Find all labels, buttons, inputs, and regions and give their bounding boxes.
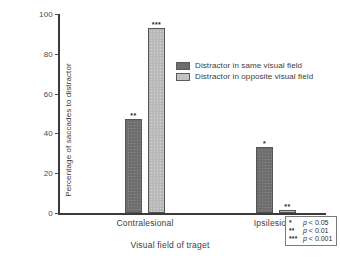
legend-item-same: Distractor in same visual field	[176, 60, 313, 71]
significance-key-stars: ***	[289, 235, 303, 242]
significance-key-stars: *	[289, 219, 303, 226]
significance-key-row: **p < 0.01	[289, 227, 332, 235]
significance-marker: ***	[152, 22, 162, 28]
significance-key-pvalue: p < 0.01	[303, 227, 329, 234]
bar-contralesional-same: **	[125, 119, 142, 213]
legend-swatch-icon	[176, 73, 190, 81]
chart-figure: Percentage of saccades to distractor 020…	[0, 0, 340, 260]
y-tick-mark	[55, 94, 59, 95]
y-tick-mark	[55, 173, 59, 174]
significance-marker: **	[130, 113, 136, 119]
y-tick-mark	[55, 213, 59, 214]
y-tick-label: 20	[44, 169, 53, 178]
y-tick-mark	[55, 14, 59, 15]
significance-key: *p < 0.05**p < 0.01***p < 0.001	[285, 216, 337, 246]
significance-key-stars: **	[289, 227, 303, 234]
significance-marker: **	[284, 204, 290, 210]
y-tick-label: 80	[44, 49, 53, 58]
significance-marker: *	[263, 141, 266, 147]
y-tick-label: 60	[44, 89, 53, 98]
y-tick-mark	[55, 133, 59, 134]
plot-area: 020406080100 ********	[58, 14, 326, 213]
legend-item-label: Distractor in opposite visual field	[195, 72, 313, 81]
significance-key-pvalue: p < 0.05	[303, 219, 329, 226]
bar-ipsilesional-opposite: **	[279, 210, 296, 213]
significance-key-row: ***p < 0.001	[289, 235, 332, 243]
series-legend: Distractor in same visual fieldDistracto…	[176, 60, 313, 82]
legend-item-label: Distractor in same visual field	[195, 61, 302, 70]
significance-key-pvalue: p < 0.001	[303, 235, 332, 242]
y-tick-label: 40	[44, 129, 53, 138]
x-axis-line	[58, 213, 326, 215]
y-axis-line	[58, 14, 60, 213]
bar-ipsilesional-same: *	[256, 147, 273, 213]
significance-key-row: *p < 0.05	[289, 219, 332, 227]
y-tick-label: 100	[39, 10, 53, 19]
legend-item-opposite: Distractor in opposite visual field	[176, 71, 313, 82]
y-tick-mark	[55, 54, 59, 55]
x-category-label-contralesional: Contralesional	[116, 218, 173, 228]
y-tick-label: 0	[48, 209, 53, 218]
legend-swatch-icon	[176, 62, 190, 70]
bar-contralesional-opposite: ***	[148, 28, 165, 213]
